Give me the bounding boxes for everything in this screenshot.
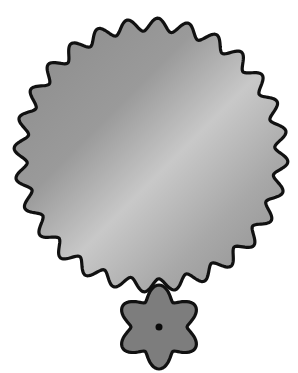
small-gear-axle-icon [156, 324, 163, 331]
large-gear [14, 18, 288, 292]
gears-illustration [0, 0, 298, 373]
